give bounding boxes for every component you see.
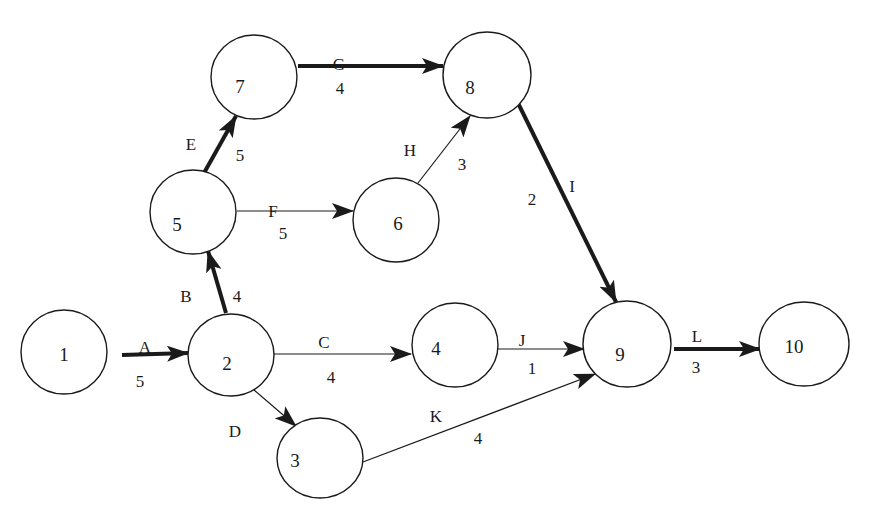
edge-b xyxy=(208,251,226,313)
activity-a-duration: 5 xyxy=(136,372,145,391)
node-1[interactable]: 1 xyxy=(21,310,107,394)
activity-d-name: D xyxy=(229,422,241,441)
activity-j-name: J xyxy=(519,331,526,350)
node-10-label: 10 xyxy=(785,336,804,357)
activity-i-duration: 2 xyxy=(528,190,537,209)
edge-k xyxy=(363,374,595,462)
node-7-label: 7 xyxy=(235,76,245,97)
activity-b-duration: 4 xyxy=(233,287,242,306)
activity-l-name: L xyxy=(692,327,702,346)
activity-h-duration: 3 xyxy=(458,155,467,174)
node-9-label: 9 xyxy=(615,344,625,365)
activity-i-name: I xyxy=(569,177,575,196)
node-4[interactable]: 4 xyxy=(412,303,498,387)
node-2-label: 2 xyxy=(222,353,232,374)
node-4-label: 4 xyxy=(431,338,441,359)
activity-a-name: A xyxy=(139,338,152,357)
node-7[interactable]: 7 xyxy=(211,35,297,119)
edge-e xyxy=(204,116,236,173)
node-2[interactable]: 2 xyxy=(188,314,274,396)
node-9[interactable]: 9 xyxy=(583,301,671,387)
activity-c-name: C xyxy=(318,333,329,352)
node-1-label: 1 xyxy=(59,344,69,365)
network-diagram: 1 2 3 4 5 6 7 8 xyxy=(0,0,880,524)
activity-c-duration: 4 xyxy=(327,368,336,387)
node-3-label: 3 xyxy=(290,450,300,471)
activity-g-duration: 4 xyxy=(336,79,345,98)
edge-a xyxy=(122,353,188,355)
activity-g-name: G xyxy=(333,55,345,74)
edges xyxy=(122,66,760,462)
nodes: 1 2 3 4 5 6 7 8 xyxy=(21,32,849,498)
node-5[interactable]: 5 xyxy=(150,170,236,254)
activity-k-duration: 4 xyxy=(474,429,483,448)
edge-d xyxy=(254,390,296,426)
activity-h-name: H xyxy=(404,141,416,160)
activity-e-name: E xyxy=(186,135,196,154)
node-5-label: 5 xyxy=(172,214,182,235)
node-6[interactable]: 6 xyxy=(353,178,439,262)
activity-l-duration: 3 xyxy=(692,358,701,377)
node-3[interactable]: 3 xyxy=(277,418,363,498)
activity-j-duration: 1 xyxy=(528,359,537,378)
activity-f-name: F xyxy=(268,202,277,221)
activity-e-duration: 5 xyxy=(236,146,245,165)
node-8[interactable]: 8 xyxy=(443,32,531,118)
node-10[interactable]: 10 xyxy=(759,302,849,386)
node-8-label: 8 xyxy=(465,77,475,98)
activity-f-duration: 5 xyxy=(279,224,288,243)
node-6-label: 6 xyxy=(393,213,403,234)
activity-k-name: K xyxy=(430,407,443,426)
activity-b-name: B xyxy=(180,287,191,306)
